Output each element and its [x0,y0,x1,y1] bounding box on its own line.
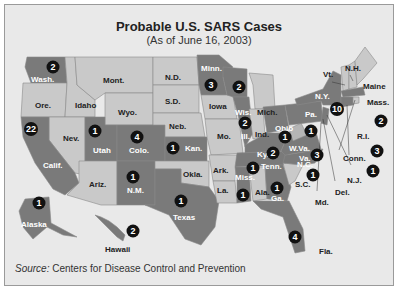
badge-wis: 2 [233,81,246,94]
badge-ny: 10 [330,102,344,116]
label-alaska: Alaska [21,220,47,229]
label-minn: Minn. [201,64,222,73]
label-del: Del. [335,188,350,197]
source-note: Source: Centers for Disease Control and … [15,263,246,274]
label-idaho: Idaho [75,101,96,110]
label-mont: Mont. [103,76,124,85]
svg-text:1: 1 [92,126,97,136]
label-ri: R.I. [357,132,369,141]
badge-va: 3 [311,149,324,162]
badge-miss: 1 [237,189,250,202]
svg-text:1: 1 [240,190,245,200]
label-utah: Utah [93,146,111,155]
svg-text:4: 4 [292,232,297,242]
label-kan: Kan. [185,144,202,153]
label-ariz: Ariz. [89,180,106,189]
label-la: La. [217,186,229,195]
svg-text:1: 1 [308,126,313,136]
label-sd: S.D. [165,97,181,106]
svg-text:3: 3 [208,80,213,90]
label-nev: Nev. [63,134,79,143]
label-md: Md. [315,198,329,207]
label-neb: Neb. [169,122,186,131]
badge-ga: 1 [271,182,284,195]
label-ore: Ore. [35,101,51,110]
label-ala: Ala. [255,188,270,197]
label-sc: S.C. [295,180,311,189]
svg-text:10: 10 [332,104,342,114]
badge-texas: 1 [175,195,188,208]
label-mass: Mass. [367,98,389,107]
label-nd: N.D. [165,73,181,82]
badge-minn: 3 [205,79,218,92]
label-tenn: Tenn. [261,162,282,171]
svg-text:2: 2 [50,62,55,72]
svg-text:1: 1 [36,198,41,208]
label-pa: Pa. [305,110,317,119]
svg-text:1: 1 [170,143,175,153]
state-alaska [19,197,77,239]
badge-kan: 1 [167,142,180,155]
badge-utah: 1 [89,125,102,138]
label-wash: Wash. [31,75,54,84]
label-mich: Mich. [257,108,277,117]
state-mich [249,73,275,109]
label-fla: Fla. [319,247,333,256]
label-maine: Maine [363,82,386,91]
svg-text:2: 2 [130,226,135,236]
label-calif: Calif. [43,161,63,170]
svg-text:4: 4 [134,132,139,142]
svg-text:1: 1 [274,183,279,193]
svg-text:1: 1 [178,196,183,206]
svg-text:1: 1 [310,170,315,180]
label-hawaii: Hawaii [105,245,130,254]
svg-text:2: 2 [270,148,275,158]
label-ill: Ill. [241,132,250,141]
badge-nm: 1 [127,171,140,184]
label-nm: N.M. [127,186,144,195]
label-ind: Ind. [255,130,269,139]
label-va: Va. [299,154,311,163]
badge-mass: 2 [375,115,388,128]
label-mo: Mo. [217,132,231,141]
state-pa [285,101,323,125]
svg-text:2: 2 [242,118,247,128]
svg-text:1: 1 [250,163,255,173]
badge-fla: 4 [289,231,302,244]
badge-wash: 2 [47,61,60,74]
label-iowa: Iowa [209,102,227,111]
map-figure: Probable U.S. SARS Cases (As of June 16,… [4,4,394,286]
badge-hawaii: 2 [127,225,140,238]
svg-text:22: 22 [26,124,36,134]
badge-alaska: 1 [33,197,46,210]
label-wis: Wis. [235,108,251,117]
state-fla [253,201,305,253]
svg-text:3: 3 [314,150,319,160]
label-wva: W.Va. [289,144,310,153]
label-wyo: Wyo. [118,108,137,117]
label-ny: N.Y. [315,92,330,101]
svg-text:1: 1 [370,166,375,176]
label-okla: Okla. [183,170,203,179]
badge-pa: 1 [305,125,318,138]
svg-text:2: 2 [378,116,383,126]
source-text: Centers for Disease Control and Preventi… [49,263,245,274]
label-conn: Conn. [343,154,366,163]
source-label: Source: [15,263,49,274]
label-texas: Texas [173,213,196,222]
state-ore [21,83,67,117]
svg-text:1: 1 [282,132,287,142]
badge-nj: 1 [367,165,380,178]
state-colo [117,125,165,161]
label-ark: Ark. [213,166,229,175]
svg-text:1: 1 [130,172,135,182]
badge-tenn: 1 [247,162,260,175]
badge-colo: 4 [131,131,144,144]
label-colo: Colo. [129,146,149,155]
badge-ky: 2 [267,147,280,160]
us-map: Wash. Ore. Idaho Mont. Wyo. Nev. Calif. … [5,5,393,285]
badge-ill: 2 [239,117,252,130]
state-hawaii [95,215,125,241]
label-nj: N.J. [347,176,362,185]
badge-conn: 3 [371,145,384,158]
